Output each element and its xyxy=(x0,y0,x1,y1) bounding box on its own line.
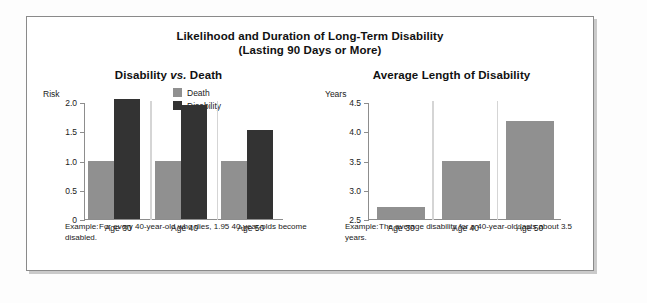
right-panel-title: Average Length of Disability xyxy=(310,69,593,81)
left-y-axis-caption: Risk xyxy=(43,89,60,99)
left-example-note: Example: For every 40-year-old who dies,… xyxy=(65,222,315,243)
y-axis-tick-label: 4.5 xyxy=(327,99,361,107)
bar-years-age-50 xyxy=(506,121,554,219)
right-y-axis-caption: Years xyxy=(325,89,346,99)
y-axis-tick-label: 1.5 xyxy=(43,128,77,136)
y-axis-tick-label: 2.0 xyxy=(43,99,77,107)
left-panel-title-italic: vs. xyxy=(170,69,186,81)
legend-swatch-death-icon xyxy=(173,88,182,97)
y-axis-tick-label: 3.0 xyxy=(327,187,361,195)
group-separator xyxy=(217,101,219,220)
y-axis-tick xyxy=(364,162,369,163)
left-panel-title: Disability vs. Death xyxy=(27,69,310,81)
figure-title: Likelihood and Duration of Long-Term Dis… xyxy=(27,29,593,57)
y-axis-tick xyxy=(364,220,369,221)
figure-frame: Likelihood and Duration of Long-Term Dis… xyxy=(26,16,594,271)
y-axis-tick xyxy=(364,103,369,104)
left-plot-area: 00.51.01.52.0Age 30Age 40Age 50 xyxy=(84,103,283,220)
bar-disability-age-50 xyxy=(247,130,273,220)
y-axis-tick-label: 1.0 xyxy=(43,158,77,166)
left-panel-title-pre: Disability xyxy=(115,69,170,81)
left-example-note-lead: Example: xyxy=(65,222,98,233)
group-separator xyxy=(150,101,152,220)
bar-years-age-40 xyxy=(442,161,490,220)
right-example-note-lead: Example: xyxy=(345,222,378,233)
y-axis-tick xyxy=(80,220,85,221)
y-axis-tick xyxy=(80,191,85,192)
bar-years-age-30 xyxy=(377,207,425,219)
figure-title-line-2: (Lasting 90 Days or More) xyxy=(27,43,593,57)
legend-label-death: Death xyxy=(187,88,210,98)
right-plot-area: 2.53.03.54.04.5Age 30Age 40Age 50 xyxy=(368,103,561,220)
right-example-note: Example: The average disability for a 40… xyxy=(345,222,595,243)
figure-page: Likelihood and Duration of Long-Term Dis… xyxy=(0,0,647,303)
group-separator xyxy=(497,101,499,220)
bar-death-age-50 xyxy=(221,161,247,220)
y-axis-tick xyxy=(80,162,85,163)
y-axis-tick xyxy=(364,132,369,133)
y-axis-tick xyxy=(80,132,85,133)
figure-title-line-1: Likelihood and Duration of Long-Term Dis… xyxy=(176,30,443,42)
bar-disability-age-30 xyxy=(114,99,140,219)
y-axis-tick-label: 4.0 xyxy=(327,128,361,136)
bar-disability-age-40 xyxy=(181,105,207,219)
y-axis-tick-label: 0.5 xyxy=(43,187,77,195)
bar-death-age-40 xyxy=(155,161,181,220)
y-axis-tick xyxy=(80,103,85,104)
left-example-note-body: For every 40-year-old who dies, 1.95 40-… xyxy=(65,222,307,242)
left-panel-title-post: Death xyxy=(186,69,222,81)
group-separator xyxy=(432,101,434,220)
y-axis-tick-label: 3.5 xyxy=(327,158,361,166)
legend-item-death: Death xyxy=(173,87,221,98)
y-axis-tick xyxy=(364,191,369,192)
right-example-note-body: The average disability for a 40-year-old… xyxy=(345,222,572,242)
bar-death-age-30 xyxy=(88,161,114,220)
